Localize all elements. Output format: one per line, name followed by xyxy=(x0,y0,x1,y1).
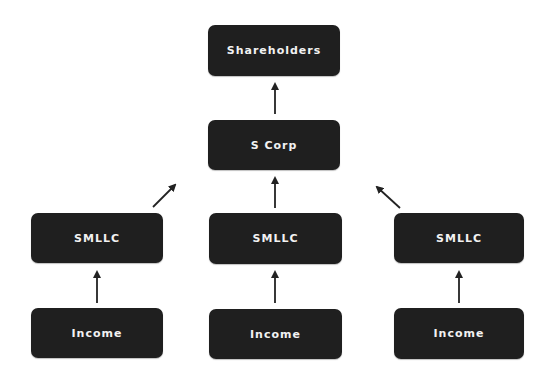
node-label: Shareholders xyxy=(227,44,322,57)
node-label: SMLLC xyxy=(436,232,482,245)
node-label: SMLLC xyxy=(253,232,299,245)
node-shareholders: Shareholders xyxy=(208,25,340,76)
node-label: Income xyxy=(72,327,123,340)
arrow-smllc-left-to-scorp xyxy=(153,185,175,207)
node-smllc-left: SMLLC xyxy=(31,213,163,263)
node-label: Income xyxy=(250,328,301,341)
node-s-corp: S Corp xyxy=(208,120,340,170)
node-smllc-middle: SMLLC xyxy=(209,213,342,264)
node-income-left: Income xyxy=(31,308,163,358)
node-income-right: Income xyxy=(394,308,524,359)
node-label: S Corp xyxy=(251,139,298,152)
node-label: Income xyxy=(434,327,485,340)
node-label: SMLLC xyxy=(74,232,120,245)
arrow-smllc-right-to-scorp xyxy=(377,187,400,208)
node-smllc-right: SMLLC xyxy=(394,213,524,263)
node-income-middle: Income xyxy=(209,309,342,359)
